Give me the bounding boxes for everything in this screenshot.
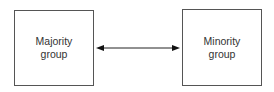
arrowhead-right-icon	[172, 45, 180, 51]
minority-group-box: Minority group	[182, 9, 262, 86]
minority-group-label: Minority group	[204, 35, 241, 61]
arrowhead-left-icon	[96, 45, 104, 51]
